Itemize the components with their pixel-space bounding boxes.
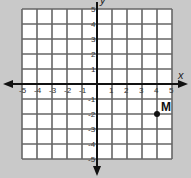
x-tick-label: 1: [109, 86, 114, 95]
x-tick-label: 2: [124, 86, 129, 95]
point-marker: [154, 111, 160, 117]
x-tick-label: -3: [49, 86, 57, 95]
coordinate-plane: -5-4-3-2-11234554321-1-2-3-4-5 x y M: [0, 0, 191, 178]
y-tick-label: -3: [88, 125, 96, 134]
y-tick-label: -5: [88, 155, 96, 164]
x-axis-label: x: [177, 69, 184, 81]
y-tick-label: -1: [88, 95, 96, 104]
x-axis-left-arrow-icon: [3, 80, 13, 88]
y-axis-down-arrow-icon: [93, 166, 101, 176]
y-tick-label: -4: [88, 140, 96, 149]
y-tick-label: 5: [91, 5, 96, 14]
x-tick-label: 5: [169, 86, 174, 95]
y-axis-label: y: [99, 0, 107, 6]
x-axis-right-arrow-icon: [178, 80, 188, 88]
y-tick-label: 3: [91, 35, 96, 44]
y-tick-label: 2: [91, 50, 96, 59]
y-tick-label: -2: [88, 110, 96, 119]
x-tick-label: 4: [154, 86, 159, 95]
x-tick-label: -4: [34, 86, 42, 95]
x-tick-label: 3: [139, 86, 144, 95]
point-label: M: [161, 100, 171, 114]
x-tick-label: -5: [19, 86, 27, 95]
y-tick-label: 4: [91, 20, 96, 29]
y-tick-label: 1: [91, 65, 96, 74]
x-tick-label: -1: [79, 86, 87, 95]
x-tick-label: -2: [64, 86, 72, 95]
